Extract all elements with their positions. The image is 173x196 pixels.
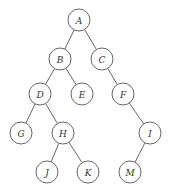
tree-node-i: I: [139, 122, 161, 144]
node-label: G: [17, 129, 24, 139]
node-label: B: [56, 55, 64, 65]
node-label: F: [119, 90, 127, 100]
node-label: M: [124, 168, 135, 178]
node-label: K: [84, 168, 93, 178]
tree-edge-b-e: [66, 68, 76, 84]
tree-node-m: M: [119, 161, 141, 183]
node-label: E: [78, 90, 86, 100]
tree-edge-a-b: [65, 30, 74, 49]
node-label: H: [58, 129, 67, 139]
tree-node-a: A: [68, 9, 90, 31]
tree-node-b: B: [49, 48, 71, 70]
binary-tree-diagram: A B C D E F G H I J K M: [0, 0, 173, 196]
tree-edge-f-i: [129, 103, 143, 124]
tree-node-k: K: [77, 161, 99, 183]
tree-edge-h-k: [69, 142, 82, 162]
tree-node-h: H: [52, 122, 74, 144]
tree-nodes: A B C D E F G H I J K M: [10, 9, 161, 183]
tree-node-c: C: [91, 48, 113, 70]
node-label: A: [75, 16, 83, 26]
tree-node-d: D: [29, 83, 51, 105]
tree-edge-b-d: [45, 69, 54, 85]
tree-node-g: G: [10, 122, 32, 144]
node-label: I: [147, 129, 152, 139]
tree-edge-c-f: [108, 68, 118, 84]
tree-edge-h-j: [51, 143, 59, 162]
tree-node-f: F: [112, 83, 134, 105]
node-label: C: [99, 55, 106, 65]
tree-edge-a-c: [85, 29, 97, 49]
tree-node-j: J: [36, 161, 58, 183]
tree-edge-i-m: [135, 143, 145, 162]
tree-node-e: E: [71, 83, 93, 105]
tree-edge-d-h: [46, 103, 58, 123]
node-label: D: [35, 90, 43, 100]
tree-edge-d-g: [26, 104, 35, 123]
